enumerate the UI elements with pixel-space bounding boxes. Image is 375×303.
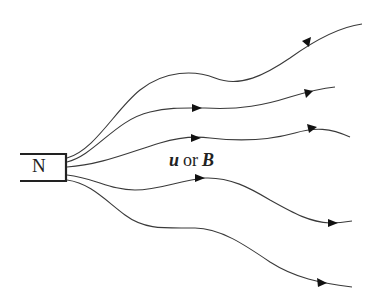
arrow-icon [317, 278, 327, 287]
magnetic-field-symbol: B [202, 150, 214, 170]
field-line-4 [67, 175, 352, 223]
arrow-icon [328, 219, 338, 227]
label-conjunction: or [183, 150, 198, 170]
magnet-pole-label: N [32, 155, 46, 177]
velocity-symbol: u [169, 150, 179, 170]
field-line-1 [67, 24, 362, 158]
arrow-icon [307, 124, 317, 133]
field-label: uorB [169, 150, 214, 171]
arrow-icon [192, 104, 202, 112]
arrow-icon [195, 174, 205, 182]
arrow-icon [191, 134, 201, 142]
arrow-icon [304, 89, 313, 98]
field-line-5 [67, 180, 352, 287]
